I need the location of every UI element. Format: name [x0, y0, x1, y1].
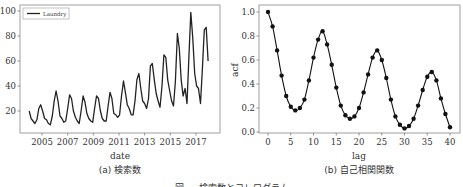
acf-point — [361, 90, 365, 94]
x-axis-label: date — [110, 151, 130, 161]
acf-point — [298, 106, 302, 110]
acf-point — [348, 117, 352, 121]
figure: 20406080100 2005200720092011201320152017… — [0, 0, 463, 187]
acf-point — [439, 96, 443, 100]
panel-caption: (a) 検索数 — [99, 164, 141, 175]
y-tick-label: 0.0 — [241, 127, 255, 137]
figure-caption: 図 ... 検索数とコレログラム — [175, 182, 288, 187]
acf-point — [311, 55, 315, 59]
acf-point — [389, 97, 393, 101]
acf-point — [380, 58, 384, 62]
x-tick-label: 2015 — [159, 137, 181, 147]
acf-point — [421, 88, 425, 92]
acf-point — [407, 124, 411, 128]
x-tick-label: 2011 — [108, 137, 130, 147]
y-tick-label: 100 — [0, 6, 16, 16]
y-tick-label: 20 — [5, 106, 16, 116]
acf-point — [334, 85, 338, 89]
acf-point — [393, 114, 397, 118]
acf-point — [325, 42, 329, 46]
acf-point — [339, 103, 343, 107]
acf-point — [275, 48, 279, 52]
acf-point — [416, 103, 420, 107]
acf-point — [425, 75, 429, 79]
acf-point — [434, 78, 438, 82]
x-tick-label: 2013 — [134, 137, 156, 147]
acf-point — [302, 97, 306, 101]
y-tick-label: 80 — [5, 31, 16, 41]
acf-point — [448, 125, 452, 129]
y-tick-label: 0.6 — [241, 55, 255, 65]
x-tick-label: 2009 — [82, 137, 104, 147]
x-axis-label: lag — [352, 151, 366, 161]
acf-point — [402, 126, 406, 130]
acf-point — [357, 106, 361, 110]
x-axis-ticks: 2005200720092011201320152017 — [31, 133, 207, 147]
laundry-line — [29, 12, 208, 125]
legend-label: Laundry — [43, 11, 67, 18]
panel-b-acf-chart: 0.00.20.40.60.81.0 0510152025303540 lag … — [230, 5, 460, 175]
x-tick-label: 15 — [331, 137, 342, 147]
plot-frame — [259, 5, 460, 133]
acf-point — [270, 24, 274, 28]
acf-point — [279, 73, 283, 77]
y-tick-label: 40 — [5, 81, 16, 91]
acf-point — [375, 48, 379, 52]
acf-point — [293, 108, 297, 112]
x-tick-label: 2017 — [185, 137, 207, 147]
y-axis-ticks: 0.00.20.40.60.81.0 — [241, 7, 259, 137]
legend: Laundry — [23, 8, 69, 19]
acf-point — [289, 105, 293, 109]
x-tick-label: 20 — [354, 137, 365, 147]
x-tick-label: 0 — [265, 137, 270, 147]
acf-point — [307, 78, 311, 82]
acf-point — [443, 112, 447, 116]
acf-markers — [266, 10, 452, 131]
acf-point — [320, 29, 324, 33]
acf-point — [352, 114, 356, 118]
acf-point — [411, 117, 415, 121]
acf-point — [266, 10, 270, 14]
x-tick-label: 25 — [376, 137, 387, 147]
panel-caption: (b) 自己相関関数 — [324, 164, 394, 175]
acf-point — [430, 70, 434, 74]
acf-point — [343, 113, 347, 117]
x-axis-ticks: 0510152025303540 — [265, 133, 455, 147]
x-tick-label: 10 — [308, 137, 319, 147]
y-tick-label: 1.0 — [241, 7, 255, 17]
acf-point — [370, 55, 374, 59]
x-tick-label: 2007 — [57, 137, 79, 147]
x-tick-label: 5 — [288, 137, 293, 147]
x-tick-label: 35 — [422, 137, 433, 147]
y-tick-label: 0.8 — [241, 31, 255, 41]
y-tick-label: 0.2 — [241, 103, 255, 113]
y-tick-label: 0.4 — [241, 79, 255, 89]
x-tick-label: 30 — [399, 137, 410, 147]
acf-point — [384, 76, 388, 80]
y-axis-label: acf — [230, 62, 240, 76]
acf-point — [316, 37, 320, 41]
x-tick-label: 40 — [445, 137, 456, 147]
acf-point — [284, 94, 288, 98]
panel-a-search-volume-chart: 20406080100 2005200720092011201320152017… — [0, 5, 220, 175]
x-tick-label: 2005 — [31, 137, 53, 147]
y-tick-label: 60 — [5, 56, 16, 66]
y-axis-ticks: 20406080100 — [0, 6, 20, 116]
acf-point — [398, 123, 402, 127]
acf-point — [366, 72, 370, 76]
acf-point — [330, 63, 334, 67]
